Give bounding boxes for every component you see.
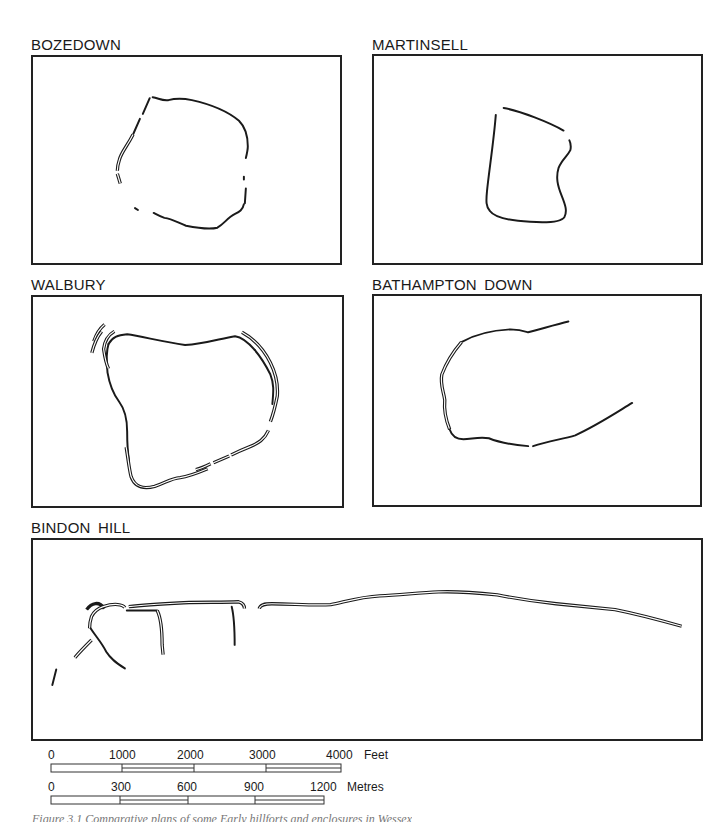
metres-tick-300: 300	[111, 780, 131, 794]
figure-caption: Figure 3.1 Comparative plans of some Ear…	[32, 812, 412, 822]
feet-tick-2000: 2000	[177, 748, 204, 762]
metres-tick-900: 900	[244, 780, 264, 794]
scale-bars: 0 1000 2000 3000 4000 Feet 0 300 600 900…	[0, 0, 728, 822]
feet-unit: Feet	[364, 748, 389, 762]
feet-tick-4000: 4000	[326, 748, 353, 762]
metres-tick-1200: 1200	[310, 780, 337, 794]
feet-tick-1000: 1000	[109, 748, 136, 762]
scale-bar-metres: 0 300 600 900 1200 Metres	[48, 780, 384, 804]
scale-bar-feet: 0 1000 2000 3000 4000 Feet	[48, 748, 389, 772]
metres-unit: Metres	[347, 780, 384, 794]
feet-tick-0: 0	[48, 748, 55, 762]
metres-tick-0: 0	[48, 780, 55, 794]
feet-tick-3000: 3000	[249, 748, 276, 762]
metres-tick-600: 600	[177, 780, 197, 794]
